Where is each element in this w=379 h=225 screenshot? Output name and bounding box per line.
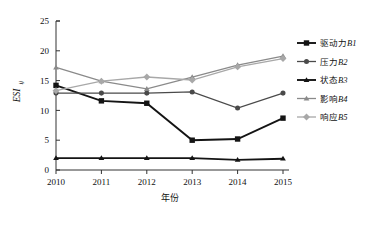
y-tick-label: 5 <box>45 135 50 145</box>
legend-label-cn: 状态 <box>320 75 338 85</box>
x-tick-label: 2013 <box>183 177 202 187</box>
y-tick-label: 20 <box>40 46 50 56</box>
chart-series <box>53 53 287 161</box>
data-point <box>190 89 195 94</box>
x-tick-label: 2015 <box>274 177 293 187</box>
legend-marker <box>303 114 310 121</box>
legend-label-code: B1 <box>347 38 356 48</box>
legend-label-code: B5 <box>338 112 347 122</box>
y-axis-title-subscript: ij <box>17 81 24 85</box>
data-point <box>280 91 285 96</box>
legend-label-code: B4 <box>338 94 348 104</box>
series-B3 <box>53 155 286 162</box>
series-B2 <box>53 89 285 110</box>
data-point <box>144 91 149 96</box>
data-point <box>99 98 104 103</box>
legend-item-B1[interactable]: 驱动力B1 <box>297 38 356 48</box>
series-line <box>56 92 283 108</box>
legend-item-B5[interactable]: 响应B5 <box>297 112 347 122</box>
legend-label-cn: 压力 <box>320 57 338 67</box>
data-point <box>53 65 59 70</box>
y-axis-title-main: ESI <box>12 88 22 104</box>
series-B4 <box>53 53 286 91</box>
x-tick-label: 2010 <box>47 177 66 187</box>
legend-item-B2[interactable]: 压力B2 <box>297 57 348 67</box>
data-point <box>98 78 105 85</box>
series-line <box>56 158 283 160</box>
legend-marker <box>304 59 309 64</box>
series-B5 <box>53 55 287 94</box>
y-tick-label: 25 <box>40 16 50 26</box>
data-point <box>235 105 240 110</box>
x-tick-label: 2011 <box>93 177 111 187</box>
data-point <box>235 136 240 141</box>
legend-label-code: B2 <box>338 57 348 67</box>
data-point <box>143 74 150 81</box>
chart-canvas: 0510152025 201020112012201320142015 驱动力B… <box>0 0 379 225</box>
y-tick-label: 15 <box>40 76 50 86</box>
esi-line-chart: 0510152025 201020112012201320142015 驱动力B… <box>0 0 379 225</box>
legend-marker <box>304 40 309 45</box>
x-tick-label: 2012 <box>138 177 156 187</box>
data-point <box>190 138 195 143</box>
legend-item-B3[interactable]: 状态B3 <box>297 75 347 85</box>
legend-item-B4[interactable]: 影响B4 <box>297 94 348 104</box>
data-point <box>99 91 104 96</box>
legend-label-cn: 响应 <box>320 112 338 122</box>
chart-legend: 驱动力B1压力B2状态B3影响B4响应B5 <box>297 38 356 122</box>
x-axis-ticks: 201020112012201320142015 <box>47 170 293 187</box>
data-point <box>280 115 285 120</box>
data-point <box>144 101 149 106</box>
x-axis-title: 年份 <box>161 192 179 203</box>
chart-axes <box>56 21 289 170</box>
y-tick-label: 0 <box>45 165 50 175</box>
legend-label-cn: 驱动力 <box>320 38 347 48</box>
y-tick-label: 10 <box>40 106 50 116</box>
y-axis-ticks: 0510152025 <box>40 16 60 175</box>
legend-label-code: B3 <box>338 75 347 85</box>
series-B1 <box>53 83 285 143</box>
legend-label-cn: 影响 <box>320 94 338 104</box>
y-axis-title: ESIij <box>12 81 24 104</box>
x-tick-label: 2014 <box>229 177 248 187</box>
